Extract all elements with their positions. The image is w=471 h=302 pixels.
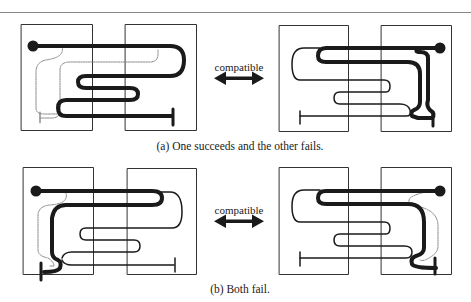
compatible-label-b: compatible	[215, 204, 264, 216]
compatible-label-a: compatible	[215, 61, 264, 73]
double-arrow-icon-b	[214, 215, 264, 229]
panel-a-left-diagram	[22, 25, 197, 131]
panel-b-left-diagram	[24, 168, 197, 281]
caption-a: (a) One succeeds and the other fails.	[157, 140, 324, 152]
panel-a-right-diagram	[280, 26, 452, 132]
panel-b-right-diagram	[280, 168, 452, 275]
double-arrow-icon-a	[214, 72, 264, 86]
caption-b: (b) Both fail.	[210, 283, 270, 295]
